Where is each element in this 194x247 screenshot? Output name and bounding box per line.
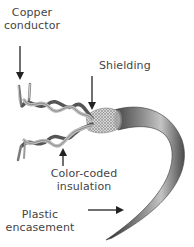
label-shielding-text: Shielding <box>99 59 159 72</box>
label-color-line1: Color-coded <box>44 167 124 180</box>
label-shielding: Shielding <box>99 59 159 72</box>
copper-conductor-tips <box>18 84 30 160</box>
label-copper-line2: conductor <box>2 19 62 32</box>
insulation-arrow <box>59 148 67 166</box>
shielding-arrow <box>88 76 96 110</box>
upper-twisted-pair <box>22 100 92 120</box>
encasement-arrow <box>88 206 124 214</box>
copper-arrow <box>16 46 24 80</box>
label-plastic-line1: Plastic <box>4 208 76 221</box>
lower-twisted-pair <box>22 124 92 146</box>
label-color-coded-insulation: Color-coded insulation <box>44 167 124 193</box>
label-copper-line1: Copper <box>2 6 62 19</box>
label-color-line2: insulation <box>44 180 124 193</box>
label-plastic-encasement: Plastic encasement <box>4 208 76 234</box>
cable-diagram: Copper conductor Shielding Color-coded i… <box>0 0 194 247</box>
label-plastic-line2: encasement <box>4 221 76 234</box>
label-copper-conductor: Copper conductor <box>2 6 62 32</box>
